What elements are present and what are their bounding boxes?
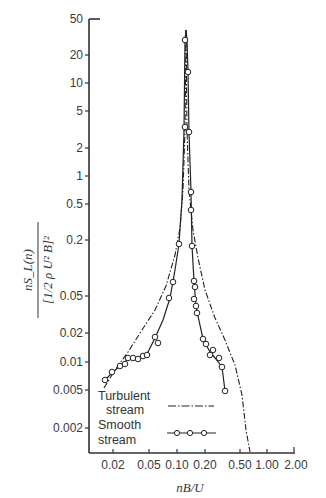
legend-turbulent-label-2: stream — [106, 403, 144, 417]
x-tick-label: 1.00 — [255, 458, 279, 472]
y-tick-label: 0.02 — [60, 326, 84, 340]
y-tick-label: 2 — [76, 141, 83, 155]
legend-smooth-label: Smooth — [98, 418, 141, 432]
y-tick-label: 0.01 — [60, 355, 84, 369]
x-ticks — [113, 447, 294, 453]
x-axis-title: nB/U — [176, 480, 205, 495]
y-axis-title-denominator: [1/2 ρ U² B]² — [40, 235, 55, 304]
y-tick-label: 1 — [76, 169, 83, 183]
series-smooth — [105, 30, 225, 391]
x-tick-labels: 0.02 0.05 0.10 0.20 0.50 1.00 2.00 — [101, 458, 308, 472]
legend-smooth-swatch — [167, 430, 216, 435]
y-tick-label: 5 — [76, 104, 83, 118]
smooth-markers — [102, 37, 228, 394]
y-tick-label: 0.2 — [66, 233, 83, 247]
x-tick-label: 2.00 — [284, 458, 308, 472]
x-tick-label: 0.05 — [137, 458, 161, 472]
y-tick-label: 0.5 — [66, 197, 83, 211]
y-tick-label: 20 — [70, 48, 84, 62]
legend-smooth-label-2: stream — [98, 433, 136, 447]
legend: Turbulent stream Smooth stream — [98, 389, 216, 447]
y-tick-label: 0.05 — [60, 289, 84, 303]
y-tick-label: 10 — [70, 76, 84, 90]
x-tick-label: 0.20 — [193, 458, 217, 472]
y-tick-label: 50 — [70, 12, 84, 26]
y-tick-label: 0.005 — [53, 383, 83, 397]
y-axis-title: nS_L(n) [1/2 ρ U² B]² — [20, 222, 55, 318]
chart: 50 20 10 5 2 1 0.5 0.2 0.05 0.02 0.01 0.… — [0, 0, 326, 498]
x-tick-label: 0.50 — [228, 458, 252, 472]
x-tick-label: 0.10 — [165, 458, 189, 472]
x-tick-label: 0.02 — [101, 458, 125, 472]
legend-turbulent-label: Turbulent — [98, 389, 151, 403]
y-tick-label: 0.002 — [53, 421, 83, 435]
y-axis-title-numerator: nS_L(n) — [20, 249, 35, 291]
y-tick-labels: 50 20 10 5 2 1 0.5 0.2 0.05 0.02 0.01 0.… — [53, 12, 83, 435]
